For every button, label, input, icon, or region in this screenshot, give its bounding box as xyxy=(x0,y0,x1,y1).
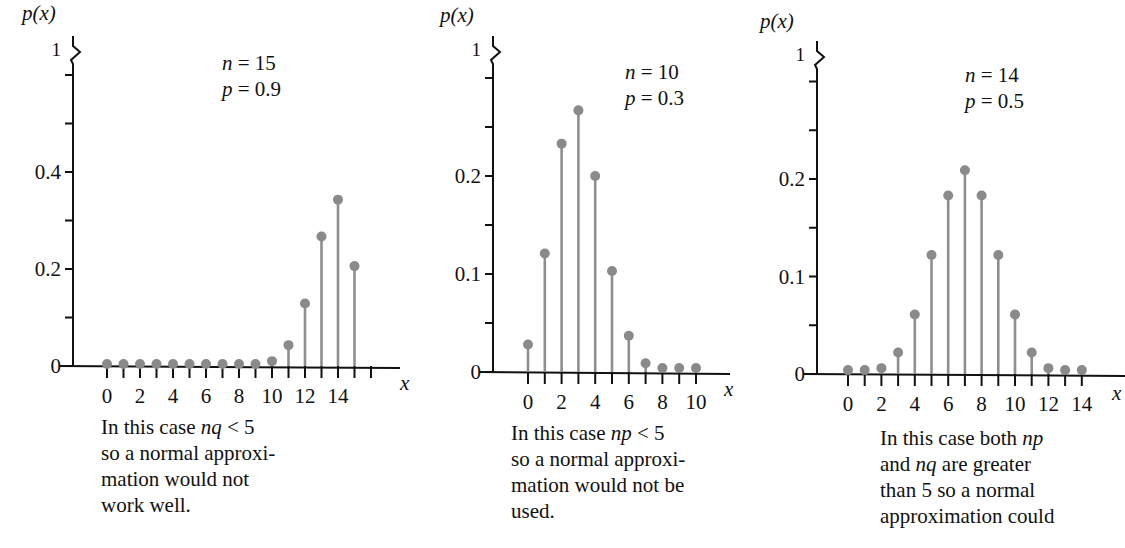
x-tick-label: 0 xyxy=(843,392,854,416)
x-tick-label: 10 xyxy=(686,390,707,414)
x-tick-label: 8 xyxy=(976,392,987,416)
stem-marker xyxy=(657,363,667,373)
stem-marker xyxy=(843,365,853,375)
stem-marker xyxy=(573,105,583,115)
x-tick-label: 2 xyxy=(135,384,146,408)
x-tick-label: 2 xyxy=(556,390,567,414)
x-tick-label: 8 xyxy=(657,390,668,414)
x-tick-label: 8 xyxy=(234,384,245,408)
y-tick-label-one: 1 xyxy=(52,39,62,60)
stem-marker xyxy=(943,191,953,201)
stem-marker xyxy=(674,363,684,373)
panel-left-params: n = 15 p = 0.9 xyxy=(222,50,281,102)
stem-marker xyxy=(960,165,970,175)
stem-marker xyxy=(860,365,870,375)
x-tick-label: 2 xyxy=(876,392,887,416)
caption-line: used. xyxy=(511,498,685,524)
x-axis-label: x xyxy=(1111,381,1122,405)
caption-line: In this case nq < 5 xyxy=(101,414,275,440)
panel-middle-caption: In this case np < 5 so a normal approxi-… xyxy=(511,420,685,524)
x-tick-label: 4 xyxy=(168,384,179,408)
y-tick-label-one: 1 xyxy=(472,39,482,60)
x-tick-label: 6 xyxy=(624,390,635,414)
y-axis xyxy=(491,36,500,372)
x-axis xyxy=(479,372,730,374)
stem-marker xyxy=(540,248,550,258)
param-n: n = 14 xyxy=(965,62,1024,88)
stem-marker xyxy=(691,363,701,373)
y-tick-label: 0.2 xyxy=(779,167,805,191)
y-tick-label: 0.1 xyxy=(455,262,481,286)
x-tick-label: 12 xyxy=(1038,392,1059,416)
stem-marker xyxy=(1043,363,1053,373)
y-axis-label: p(x) xyxy=(758,9,794,33)
stem-chart-right: 00.10.21p(x)x02468101214 xyxy=(758,9,1125,416)
y-axis xyxy=(815,41,824,374)
stem-marker xyxy=(910,310,920,320)
panel-right-caption: In this case both np and nq are greater … xyxy=(880,425,1054,529)
panel-middle-params: n = 10 p = 0.3 xyxy=(625,59,684,111)
stem-marker xyxy=(234,359,244,369)
caption-line: In this case both np xyxy=(880,425,1054,451)
caption-line: work well. xyxy=(101,492,275,518)
stem-marker xyxy=(284,340,294,350)
x-tick-label: 12 xyxy=(295,384,316,408)
x-tick-label: 14 xyxy=(1071,392,1093,416)
y-tick-label: 0.2 xyxy=(455,164,481,188)
stem-marker xyxy=(893,348,903,358)
stem-marker xyxy=(267,356,277,366)
stem-chart-middle: 00.10.21p(x)x0246810 xyxy=(438,3,734,414)
caption-line: and nq are greater xyxy=(880,451,1054,477)
caption-line: than 5 so a normal xyxy=(880,477,1054,503)
stem-marker xyxy=(557,139,567,149)
y-tick-label: 0.2 xyxy=(35,257,61,281)
stem-marker xyxy=(590,171,600,181)
param-n: n = 15 xyxy=(222,50,281,76)
x-tick-label: 6 xyxy=(201,384,212,408)
y-tick-label: 0 xyxy=(795,362,806,386)
stem-marker xyxy=(218,359,228,369)
param-n: n = 10 xyxy=(625,59,684,85)
y-tick-label: 0.1 xyxy=(779,265,805,289)
param-p: p = 0.3 xyxy=(625,85,684,111)
stem-marker xyxy=(201,359,211,369)
panel-right-params: n = 14 p = 0.5 xyxy=(965,62,1024,114)
stem-marker xyxy=(152,359,162,369)
x-axis-label: x xyxy=(723,377,734,401)
x-tick-label: 4 xyxy=(910,392,921,416)
x-tick-label: 10 xyxy=(262,384,283,408)
x-axis-label: x xyxy=(399,371,410,395)
stem-chart-left: 00.20.41p(x)x02468101214 xyxy=(20,1,410,408)
stem-marker xyxy=(1027,348,1037,358)
x-tick-label: 0 xyxy=(102,384,113,408)
y-tick-label: 0 xyxy=(471,360,482,384)
stem-marker xyxy=(977,191,987,201)
stem-marker xyxy=(624,331,634,341)
caption-line: mation would not xyxy=(101,466,275,492)
stem-marker xyxy=(1010,310,1020,320)
param-p: p = 0.9 xyxy=(222,76,281,102)
stem-marker xyxy=(251,359,261,369)
stem-marker xyxy=(102,359,112,369)
caption-line: so a normal approxi- xyxy=(101,440,275,466)
caption-line: approximation could xyxy=(880,503,1054,529)
stem-marker xyxy=(523,340,533,350)
stem-marker xyxy=(641,358,651,368)
stem-marker xyxy=(607,266,617,276)
y-tick-label: 0.4 xyxy=(35,160,62,184)
caption-line: mation would not be xyxy=(511,472,685,498)
x-tick-label: 10 xyxy=(1005,392,1026,416)
y-axis-label: p(x) xyxy=(20,1,56,25)
caption-line: In this case np < 5 xyxy=(511,420,685,446)
param-p: p = 0.5 xyxy=(965,88,1024,114)
stem-marker xyxy=(135,359,145,369)
x-tick-label: 6 xyxy=(943,392,954,416)
y-tick-label: 0 xyxy=(51,354,62,378)
stem-marker xyxy=(300,298,310,308)
stem-marker xyxy=(993,250,1003,260)
panel-left-caption: In this case nq < 5 so a normal approxi-… xyxy=(101,414,275,518)
stem-marker xyxy=(876,363,886,373)
stem-marker xyxy=(168,359,178,369)
y-tick-label-one: 1 xyxy=(796,44,806,65)
stem-marker xyxy=(1060,365,1070,375)
